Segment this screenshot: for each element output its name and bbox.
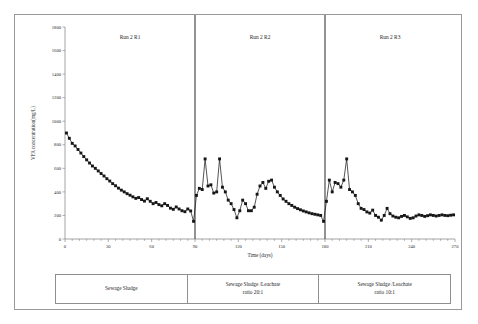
data-point [146, 197, 149, 200]
data-point [218, 157, 221, 160]
data-point [85, 158, 88, 161]
data-point [308, 211, 311, 214]
data-point [354, 194, 357, 197]
vfa-concentration-line-chart: 0200400600800100012001400160018000306090… [15, 15, 463, 267]
data-point [334, 181, 337, 184]
data-point [244, 202, 247, 205]
y-tick-label: 1000 [52, 119, 62, 124]
data-point [296, 207, 299, 210]
data-point [368, 212, 371, 215]
data-point [313, 213, 316, 216]
legend-cell-2-line2: ratio 20:1 [226, 289, 280, 297]
x-tick-label: 270 [452, 244, 460, 249]
data-point [233, 208, 236, 211]
treatment-legend-strip: Sewage Sludge Sewage Sludge /Leachate ra… [55, 274, 451, 304]
data-point [140, 198, 143, 201]
data-point [155, 201, 158, 204]
vfa-series-line [66, 133, 453, 221]
data-point [108, 180, 111, 183]
data-point [417, 213, 420, 216]
data-point [351, 190, 354, 193]
data-point [331, 190, 334, 193]
data-point [181, 209, 184, 212]
data-point [345, 157, 348, 160]
data-point [79, 152, 82, 155]
data-point [256, 193, 259, 196]
data-point [259, 185, 262, 188]
data-point [316, 213, 319, 216]
x-tick-label: 60 [149, 244, 154, 249]
legend-cell-2-line1: Sewage Sludge /Leachate [226, 281, 280, 289]
data-point [111, 182, 114, 185]
data-point [169, 207, 172, 210]
x-tick-label: 30 [106, 244, 111, 249]
data-point [189, 210, 192, 213]
data-point [195, 194, 198, 197]
run-label-3: Run 2 R3 [380, 34, 401, 40]
data-point [97, 169, 100, 172]
data-point [409, 217, 412, 220]
data-point [287, 202, 290, 205]
data-point [71, 142, 74, 145]
data-point [357, 202, 360, 205]
y-tick-label: 1400 [52, 72, 62, 77]
data-point [452, 213, 455, 216]
data-point [438, 214, 441, 217]
data-point [137, 196, 140, 199]
data-point [267, 180, 270, 183]
y-tick-label: 1200 [52, 95, 62, 100]
data-point [204, 157, 207, 160]
data-point [270, 179, 273, 182]
x-tick-label: 90 [193, 244, 198, 249]
data-point [380, 219, 383, 222]
data-point [322, 220, 325, 223]
y-tick-label: 400 [54, 190, 62, 195]
data-point [446, 214, 449, 217]
data-point [250, 209, 253, 212]
x-tick-label: 0 [64, 244, 67, 249]
data-point [276, 190, 279, 193]
data-point [264, 187, 267, 190]
data-point [337, 182, 340, 185]
data-point [282, 198, 285, 201]
data-point [235, 216, 238, 219]
data-point [207, 185, 210, 188]
data-point [412, 216, 415, 219]
figure-frame: 0200400600800100012001400160018000306090… [14, 14, 462, 310]
data-point [131, 195, 134, 198]
data-point [325, 200, 328, 203]
data-point [175, 206, 178, 209]
x-tick-label: 150 [278, 244, 286, 249]
data-point [273, 186, 276, 189]
data-point [247, 209, 250, 212]
data-point [342, 179, 345, 182]
data-point [253, 206, 256, 209]
data-point [212, 192, 215, 195]
data-point [435, 215, 438, 218]
data-point [163, 202, 166, 205]
data-point [192, 220, 195, 223]
data-point [441, 213, 444, 216]
data-point [166, 204, 169, 207]
data-point [143, 200, 146, 203]
data-point [123, 190, 126, 193]
data-point [423, 215, 426, 218]
data-point [299, 208, 302, 211]
y-tick-label: 600 [54, 166, 62, 171]
data-point [279, 194, 282, 197]
data-point [432, 214, 435, 217]
data-point [241, 199, 244, 202]
data-point [74, 145, 77, 148]
data-point [198, 187, 201, 190]
data-point [68, 137, 71, 140]
legend-cell-phase-1: Sewage Sludge [56, 275, 188, 303]
data-point [319, 214, 322, 217]
data-point [224, 190, 227, 193]
plot-area: 0200400600800100012001400160018000306090… [15, 15, 463, 267]
y-tick-label: 800 [54, 142, 62, 147]
data-point [215, 190, 218, 193]
data-point [134, 197, 137, 200]
data-point [221, 186, 224, 189]
data-point [426, 214, 429, 217]
data-point [285, 200, 288, 203]
